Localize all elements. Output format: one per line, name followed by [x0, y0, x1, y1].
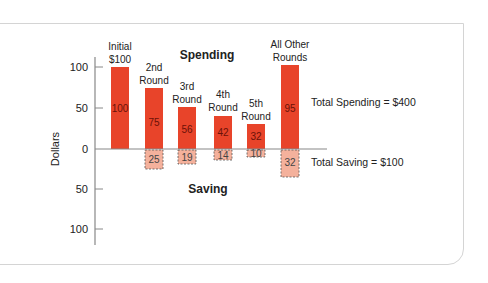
category-label: Round [241, 111, 270, 122]
category-label: $100 [109, 54, 132, 65]
ytick-0: 0 [82, 143, 88, 155]
category-label: Initial [108, 41, 131, 52]
value-label: 19 [181, 152, 193, 163]
category-label: Rounds [273, 52, 307, 63]
value-label: 25 [148, 154, 160, 165]
category-label: Round [208, 102, 237, 113]
saving-title: Saving [188, 182, 227, 196]
value-label: 14 [217, 150, 229, 161]
y-axis-label: Dollars [49, 131, 61, 166]
value-label: 10 [250, 148, 262, 159]
ytick-50-bottom: 50 [76, 183, 88, 195]
category-label: Round [172, 94, 201, 105]
category-label: 2nd [146, 62, 163, 73]
value-label: 75 [148, 117, 160, 128]
total-saving-annotation: Total Saving = $100 [311, 156, 404, 168]
value-label: 100 [112, 103, 129, 114]
category-label: Round [139, 75, 168, 86]
value-label: 32 [284, 157, 296, 168]
value-label: 32 [250, 131, 262, 142]
category-label: 3rd [180, 81, 194, 92]
category-label: 4th [216, 89, 230, 100]
value-label: 95 [284, 103, 296, 114]
total-spending-annotation: Total Spending = $400 [311, 96, 416, 108]
category-label: All Other [271, 39, 311, 50]
value-label: 56 [181, 124, 193, 135]
category-label: 5th [249, 98, 263, 109]
ytick-100-top: 100 [70, 61, 88, 73]
spending-title: Spending [180, 48, 235, 62]
ytick-100-bottom: 100 [70, 223, 88, 235]
spending-saving-chart: 100 50 0 50 100 Dollars 100 75 56 42 32 … [0, 0, 488, 283]
ytick-50-top: 50 [76, 102, 88, 114]
value-label: 42 [217, 127, 229, 138]
